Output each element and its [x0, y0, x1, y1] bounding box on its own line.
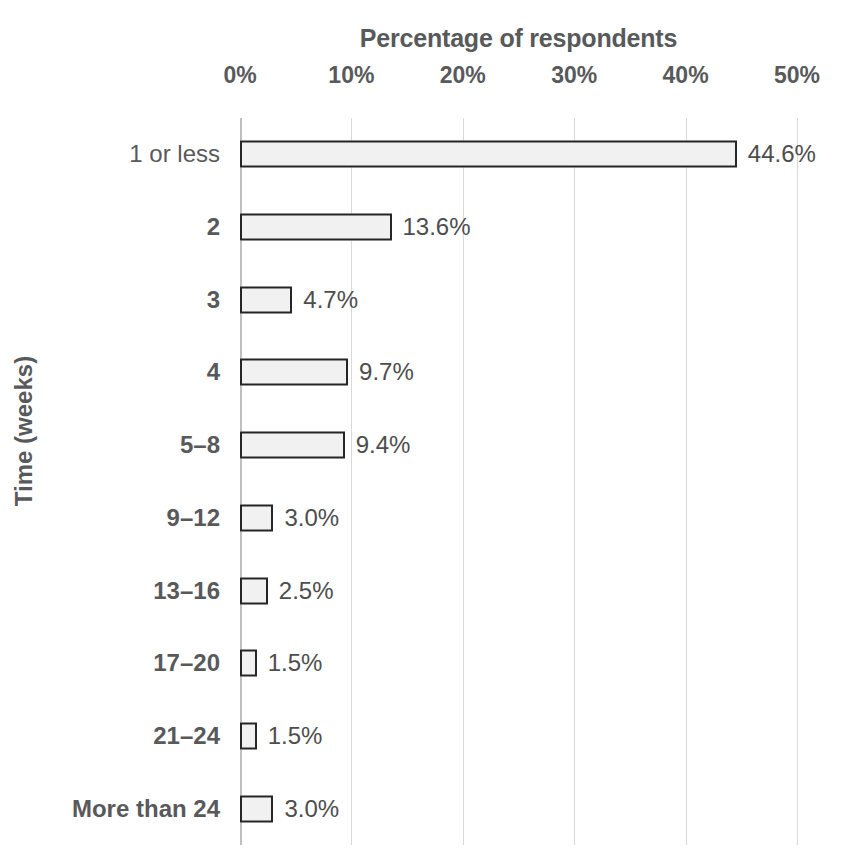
bar[interactable]: [240, 432, 345, 459]
y-axis-category-label: 17–20: [0, 649, 232, 677]
bar[interactable]: [240, 359, 348, 386]
y-axis-category-label: 3: [0, 286, 232, 314]
bar-row[interactable]: 3.0%: [240, 482, 797, 555]
bar-value-label: 44.6%: [737, 140, 816, 168]
bar-value-label: 1.5%: [257, 649, 323, 677]
y-axis-category-label: 13–16: [0, 577, 232, 605]
bar[interactable]: [240, 286, 292, 313]
y-axis-category-label: 21–24: [0, 722, 232, 750]
plot-area: 44.6%13.6%4.7%9.7%9.4%3.0%2.5%1.5%1.5%3.…: [240, 118, 797, 845]
bar-value-label: 4.7%: [292, 286, 358, 314]
chart-title: Percentage of respondents: [240, 24, 797, 53]
bar-row[interactable]: 44.6%: [240, 118, 797, 191]
bar-row[interactable]: 9.4%: [240, 409, 797, 482]
bar[interactable]: [240, 141, 737, 168]
bar-value-label: 1.5%: [257, 722, 323, 750]
bar[interactable]: [240, 214, 392, 241]
bar-row[interactable]: 2.5%: [240, 554, 797, 627]
y-axis-category-label: 5–8: [0, 431, 232, 459]
bar[interactable]: [240, 795, 273, 822]
bar-row[interactable]: 13.6%: [240, 191, 797, 264]
bar-value-label: 13.6%: [392, 213, 471, 241]
x-axis-tick-label: 40%: [663, 62, 709, 89]
bar[interactable]: [240, 722, 257, 749]
bar-value-label: 3.0%: [273, 504, 339, 532]
bar[interactable]: [240, 577, 268, 604]
bar-value-label: 9.7%: [348, 358, 414, 386]
y-axis-tick-labels: 1 or less2345–89–1213–1617–2021–24More t…: [0, 118, 232, 845]
y-axis-category-label: 2: [0, 213, 232, 241]
bar-chart-figure: Percentage of respondents 0%10%20%30%40%…: [0, 0, 851, 862]
y-axis-category-label: 9–12: [0, 504, 232, 532]
x-axis-tick-label: 10%: [328, 62, 374, 89]
y-axis-category-label: More than 24: [0, 795, 232, 823]
x-axis-tick-labels: 0%10%20%30%40%50%: [0, 62, 851, 92]
bar-row[interactable]: 3.0%: [240, 772, 797, 845]
x-axis-tick-label: 20%: [440, 62, 486, 89]
bar-row[interactable]: 9.7%: [240, 336, 797, 409]
x-axis-tick-label: 0%: [223, 62, 256, 89]
x-axis-tick-label: 30%: [551, 62, 597, 89]
gridline: [797, 118, 798, 845]
bar-row[interactable]: 1.5%: [240, 700, 797, 773]
bar[interactable]: [240, 650, 257, 677]
y-axis-category-label: 4: [0, 358, 232, 386]
bar-value-label: 3.0%: [273, 795, 339, 823]
y-axis-category-label: 1 or less: [0, 140, 232, 168]
bar-row[interactable]: 1.5%: [240, 627, 797, 700]
bar-value-label: 2.5%: [268, 577, 334, 605]
x-axis-tick-label: 50%: [774, 62, 820, 89]
bar-value-label: 9.4%: [345, 431, 411, 459]
bar-row[interactable]: 4.7%: [240, 263, 797, 336]
bar[interactable]: [240, 504, 273, 531]
